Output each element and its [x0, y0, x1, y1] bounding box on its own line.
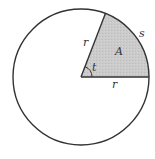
circle-sector-diagram: r A s t r [0, 0, 155, 159]
label-area: A [114, 45, 123, 58]
label-radius-slanted: r [83, 36, 89, 49]
label-arc-length: s [139, 27, 145, 40]
label-angle: t [92, 61, 97, 74]
label-radius-horizontal: r [112, 78, 118, 91]
